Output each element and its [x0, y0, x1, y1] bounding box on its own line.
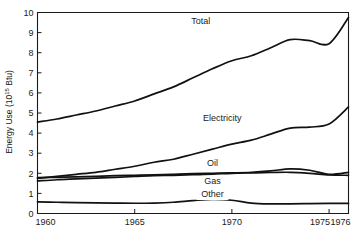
y-tick-label: 5 [28, 108, 33, 118]
series-label-gas: Gas [204, 176, 221, 186]
series-label-electricity: Electricity [203, 113, 242, 123]
y-tick-label: 3 [28, 148, 33, 158]
series-label-oil: Oil [207, 158, 218, 168]
x-tick-label: 1970 [222, 217, 242, 227]
y-tick-label: 0 [28, 209, 33, 219]
y-axis-title-text: Energy Use (1015 Btu) [4, 70, 14, 154]
series-label-total: Total [191, 16, 210, 26]
y-tick-label: 1 [28, 189, 33, 199]
y-tick-label: 7 [28, 68, 33, 78]
energy-use-line-chart: Energy Use (1015 Btu) 012345678910 19601… [0, 0, 364, 234]
x-tick-label: 1965 [125, 217, 145, 227]
x-tick-label: 1975 [310, 217, 330, 227]
x-tick-label: 1960 [35, 217, 55, 227]
x-tick-label: 1976 [330, 217, 350, 227]
series-label-other: Other [201, 189, 224, 199]
y-tick-label: 6 [28, 88, 33, 98]
y-tick-label: 9 [28, 28, 33, 38]
y-tick-label: 10 [23, 8, 33, 18]
y-axis-title: Energy Use (1015 Btu) [4, 70, 14, 154]
y-tick-label: 4 [28, 128, 33, 138]
chart-background [0, 0, 364, 234]
y-tick-label: 2 [28, 169, 33, 179]
chart-page: Energy Use (1015 Btu) 012345678910 19601… [0, 0, 364, 234]
y-tick-label: 8 [28, 48, 33, 58]
